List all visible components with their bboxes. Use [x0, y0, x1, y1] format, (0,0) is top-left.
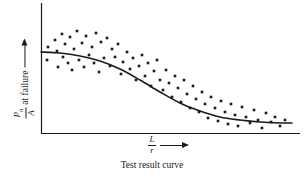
scatter-point	[67, 62, 70, 65]
scatter-point	[138, 65, 141, 68]
scatter-point	[204, 103, 207, 106]
test-result-curve-figure: Pn A at failure L r Test result curve	[0, 0, 304, 180]
scatter-point	[249, 122, 252, 125]
scatter-point	[183, 79, 186, 82]
scatter-point	[57, 66, 60, 69]
x-axis-fraction: L r	[148, 135, 156, 156]
scatter-point	[61, 33, 64, 36]
scatter-point	[132, 57, 135, 60]
scatter-point	[54, 39, 57, 42]
scatter-point	[261, 127, 264, 130]
scatter-point	[46, 59, 49, 62]
fitted-curve-line	[41, 52, 292, 123]
scatter-point	[93, 62, 96, 65]
scatter-point	[147, 62, 150, 65]
scatter-point	[227, 123, 230, 126]
scatter-point	[64, 43, 67, 46]
scatter-point	[85, 35, 88, 38]
scatter-point	[245, 116, 248, 119]
scatter-point	[47, 46, 50, 49]
scatter-point	[73, 48, 76, 51]
arrow-right-icon	[160, 142, 190, 149]
scatter-point	[156, 59, 159, 62]
scatter-point	[117, 43, 120, 46]
scatter-point	[210, 96, 213, 99]
scatter-points-group	[46, 30, 287, 130]
scatter-point	[201, 91, 204, 94]
y-axis-fraction: Pn A	[13, 108, 36, 119]
x-axis-label: L r	[148, 135, 190, 156]
scatter-point	[274, 116, 277, 119]
scatter-point	[241, 106, 244, 109]
y-axis-label-suffix: at failure	[20, 71, 30, 105]
scatter-point	[220, 100, 223, 103]
scatter-point	[284, 119, 287, 122]
scatter-point	[120, 73, 123, 76]
scatter-point	[159, 79, 162, 82]
scatter-point	[174, 75, 177, 78]
scatter-point	[129, 68, 132, 71]
scatter-point	[81, 42, 84, 45]
scatter-point	[279, 125, 282, 128]
scatter-point	[168, 82, 171, 85]
scatter-point	[106, 37, 109, 40]
scatter-point	[71, 69, 74, 72]
scatter-point	[207, 117, 210, 120]
scatter-point	[153, 70, 156, 73]
y-axis-label: Pn A at failure	[12, 22, 38, 134]
scatter-point	[83, 66, 86, 69]
scatter-point	[265, 112, 268, 115]
x-axis-denominator: r	[149, 146, 155, 156]
scatter-point	[141, 54, 144, 57]
scatter-point	[111, 48, 114, 51]
scatter-point	[195, 98, 198, 101]
scatter-point	[76, 30, 79, 33]
scatter-point	[230, 103, 233, 106]
scatter-point	[177, 87, 180, 90]
scatter-point	[144, 75, 147, 78]
scatter-point	[162, 89, 165, 92]
scatter-point	[186, 93, 189, 96]
scatter-point	[234, 114, 237, 117]
scatter-point	[165, 69, 168, 72]
scatter-point	[214, 107, 217, 110]
scatter-point	[62, 56, 65, 59]
scatter-point	[78, 59, 81, 62]
scatter-point	[98, 71, 101, 74]
scatter-point	[126, 51, 129, 54]
y-axis-numerator: Pn	[13, 108, 25, 119]
y-axis-denominator: A	[27, 109, 37, 117]
scatter-point	[237, 125, 240, 128]
scatter-point	[192, 85, 195, 88]
scatter-point	[88, 54, 91, 57]
arrow-up-icon	[21, 38, 28, 68]
scatter-point	[100, 41, 103, 44]
scatter-point	[224, 111, 227, 114]
figure-caption: Test result curve	[0, 160, 304, 170]
scatter-point	[253, 109, 256, 112]
scatter-point	[114, 56, 117, 59]
scatter-point	[69, 36, 72, 39]
scatter-point	[217, 120, 220, 123]
scatter-point	[91, 46, 94, 49]
scatter-point	[95, 32, 98, 35]
x-axis-numerator: L	[148, 135, 155, 145]
scatter-point	[103, 57, 106, 60]
scatter-point	[122, 61, 125, 64]
scatter-point	[257, 119, 260, 122]
